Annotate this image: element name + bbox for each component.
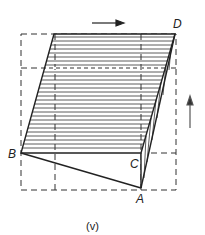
- label-c: C: [130, 157, 139, 171]
- shear-arrow-side: [187, 96, 193, 128]
- shear-deformation-diagram: D B C A (v): [0, 0, 205, 235]
- label-b: B: [8, 147, 16, 161]
- label-d: D: [173, 17, 182, 31]
- figure-caption: (v): [86, 220, 99, 232]
- label-a: A: [135, 192, 144, 206]
- shear-arrow-top: [92, 20, 124, 26]
